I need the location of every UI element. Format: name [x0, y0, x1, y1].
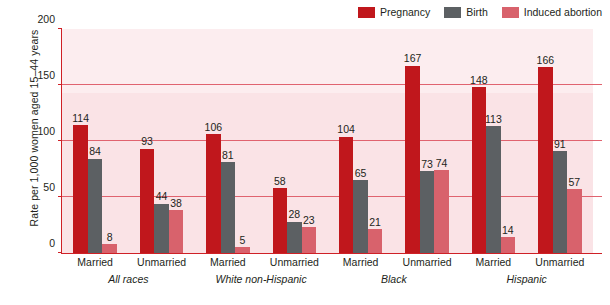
x-axis-group-label: All races: [108, 274, 148, 285]
bar-value-label: 58: [274, 176, 286, 187]
bar-value-label: 23: [303, 215, 315, 226]
x-axis-tick-label: Married: [210, 257, 246, 268]
bar-value-label: 57: [569, 177, 581, 188]
legend-item-induced-abortion: Induced abortion: [502, 7, 602, 18]
bar: 23: [302, 227, 317, 253]
bar: 28: [287, 222, 302, 253]
bar-value-label: 106: [205, 122, 223, 133]
x-axis-group-label: Hispanic: [506, 274, 546, 285]
x-axis-tick-label: Married: [476, 257, 512, 268]
bar: 166: [538, 67, 553, 253]
bar-value-label: 73: [421, 159, 433, 170]
x-axis-labels: MarriedUnmarriedAll racesMarriedUnmarrie…: [62, 257, 593, 303]
bar-value-label: 14: [502, 225, 514, 236]
plot-area: 050100150200 114848934438106815582823104…: [62, 29, 593, 253]
bar: 8: [102, 244, 117, 253]
legend-label-pregnancy: Pregnancy: [380, 7, 430, 18]
bar-value-label: 167: [404, 53, 422, 64]
y-axis-tick-label: 0: [49, 237, 55, 248]
x-axis-tick-label: Unmarried: [403, 257, 452, 268]
bar-value-label: 113: [485, 114, 502, 125]
x-axis-tick-label: Unmarried: [270, 257, 319, 268]
x-axis-tick-label: Married: [343, 257, 379, 268]
y-axis-tick-label: 200: [37, 13, 55, 24]
bar-value-label: 93: [141, 136, 153, 147]
bar: 14: [501, 237, 516, 253]
bar: 91: [553, 151, 568, 253]
legend-swatch-induced-abortion: [502, 7, 519, 18]
y-axis-tick-label: 150: [37, 69, 55, 80]
bar-value-label: 166: [537, 55, 555, 66]
bar: 5: [235, 247, 250, 253]
bar-value-label: 104: [337, 124, 355, 135]
bar-value-label: 74: [436, 158, 448, 169]
bar: 73: [420, 171, 435, 253]
legend-swatch-pregnancy: [358, 7, 375, 18]
bar: 113: [486, 126, 501, 253]
legend-item-birth: Birth: [444, 7, 488, 18]
bar-value-label: 81: [222, 150, 234, 161]
bar-value-label: 148: [470, 75, 488, 86]
bar: 58: [273, 188, 288, 253]
bar: 106: [206, 134, 221, 253]
bar: 148: [472, 87, 487, 253]
bar-value-label: 5: [239, 235, 245, 246]
x-axis-group-label: Black: [381, 274, 407, 285]
bar-value-label: 114: [72, 113, 89, 124]
bar: 93: [140, 149, 155, 253]
legend-label-induced-abortion: Induced abortion: [524, 7, 602, 18]
bar-value-label: 21: [369, 217, 381, 228]
bar: 38: [169, 210, 184, 253]
bar-value-label: 38: [170, 198, 182, 209]
bar: 74: [434, 170, 449, 253]
bar-value-label: 44: [156, 191, 168, 202]
bar: 167: [405, 66, 420, 253]
bar: 81: [221, 162, 236, 253]
bars-layer: 1148489344381068155828231046521167737414…: [62, 29, 593, 253]
bar-value-label: 91: [554, 139, 566, 150]
y-axis-tick-label: 50: [43, 181, 55, 192]
bar: 114: [73, 125, 88, 253]
x-axis-group-label: White non-Hispanic: [216, 274, 307, 285]
chart-legend: Pregnancy Birth Induced abortion: [358, 4, 602, 20]
bar: 21: [368, 229, 383, 253]
bar-value-label: 8: [107, 232, 113, 243]
bar-chart: Pregnancy Birth Induced abortion Rate pe…: [0, 0, 610, 305]
legend-label-birth: Birth: [466, 7, 488, 18]
legend-item-pregnancy: Pregnancy: [358, 7, 430, 18]
legend-swatch-birth: [444, 7, 461, 18]
bar: 104: [339, 137, 354, 253]
bar-value-label: 84: [89, 146, 101, 157]
bar: 44: [154, 204, 169, 253]
y-axis-tick-label: 100: [37, 125, 55, 136]
bar: 84: [88, 159, 103, 253]
x-axis-tick-label: Unmarried: [137, 257, 186, 268]
x-axis-tick-label: Married: [77, 257, 113, 268]
bar: 65: [353, 180, 368, 253]
bar: 57: [567, 189, 582, 253]
bar-value-label: 65: [355, 168, 367, 179]
x-axis-tick-label: Unmarried: [535, 257, 584, 268]
bar-value-label: 28: [289, 209, 301, 220]
